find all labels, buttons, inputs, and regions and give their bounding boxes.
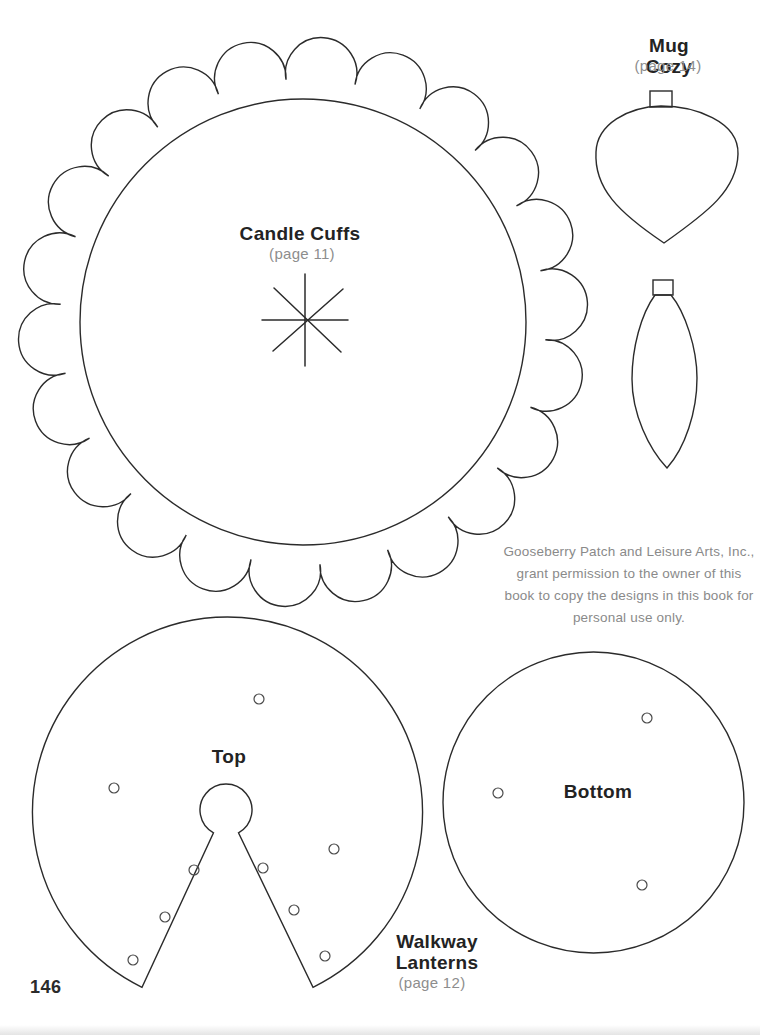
lantern-top-pattern [33,617,423,987]
mug-cozy-page-ref: (page 14) [635,57,702,74]
center-asterisk-mark [262,274,348,366]
candle-cuff-inner-circle [80,99,526,545]
page-number: 146 [30,977,62,998]
book-page: { "page": { "number": "146", "ink_color"… [0,0,760,1035]
mug-cozy-pod-tab [653,280,673,295]
lantern-bottom-outline [443,652,744,953]
pattern-canvas [0,0,760,1035]
candle-cuff-pattern [19,38,588,607]
candle-cuffs-title: Candle Cuffs [240,223,361,244]
page-edge-shadow [0,1025,760,1035]
mug-cozy-pod-shape [632,280,697,468]
mug-cozy-ornament-tab [650,91,672,107]
lantern-bottom-label: Bottom [564,781,632,802]
lantern-bottom-pattern [443,652,744,953]
copy-permission-notice: Gooseberry Patch and Leisure Arts, Inc.,… [469,541,760,629]
lantern-top-punch-holes [109,694,339,965]
mug-cozy-ornament-shape [596,91,738,243]
candle-cuff-scalloped-edge [19,38,588,607]
candle-cuffs-page-ref: (page 11) [269,245,335,262]
lantern-top-outline [33,617,423,987]
lantern-top-label: Top [212,746,246,767]
walkway-lanterns-page-ref: (page 12) [399,974,466,991]
walkway-lanterns-title: Walkway Lanterns [396,931,479,973]
